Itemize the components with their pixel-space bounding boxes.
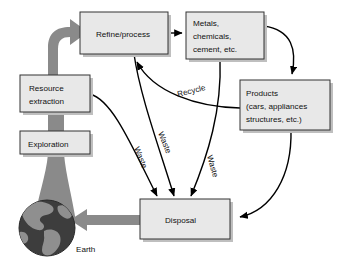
earth-label: Earth — [76, 245, 95, 254]
edge-label-waste-right: Waste — [205, 154, 220, 179]
edge-metals-to-products — [264, 26, 294, 74]
edge-label-waste-middle: Waste — [156, 130, 173, 155]
node-label-products-line3: structures, etc.) — [246, 115, 302, 124]
node-disposal[interactable]: Disposal — [140, 199, 233, 242]
diagram-canvas: Earth Recycle Waste Waste Waste — [0, 0, 341, 266]
node-label-exploration: Exploration — [28, 140, 69, 149]
node-label-products-line1: Products — [246, 89, 278, 98]
edge-label-recycle: Recycle — [176, 83, 207, 99]
materials-cycle-diagram: Earth Recycle Waste Waste Waste — [0, 0, 341, 266]
node-products[interactable]: Products (cars, appliances structures, e… — [240, 80, 333, 133]
node-label-disposal: Disposal — [165, 216, 196, 225]
node-label-resource-line1: Resource — [29, 84, 64, 93]
node-label-resource-line2: extraction — [29, 97, 64, 106]
node-label-metals-line2: chemicals, — [193, 32, 231, 41]
node-label-metals-line1: Metals, — [193, 19, 219, 28]
node-label-metals-line3: cement, etc. — [193, 45, 237, 54]
node-refine-process[interactable]: Refine/process — [80, 12, 171, 57]
node-label-products-line2: (cars, appliances — [246, 102, 307, 111]
edge-label-waste-left: Waste — [132, 145, 149, 170]
edge-products-to-disposal — [240, 130, 291, 217]
node-label-refine-process: Refine/process — [96, 30, 150, 39]
disposal-to-earth-flow — [70, 209, 140, 231]
node-metals-chemicals[interactable]: Metals, chemicals, cement, etc. — [186, 12, 267, 62]
edge-labels-group: Recycle Waste Waste Waste — [132, 83, 220, 179]
node-resource-extraction[interactable]: Resource extraction — [20, 75, 93, 115]
edge-recycle-products-to-refine — [137, 62, 240, 108]
node-exploration[interactable]: Exploration — [20, 131, 93, 157]
edge-waste-refine-to-disposal — [134, 54, 174, 196]
